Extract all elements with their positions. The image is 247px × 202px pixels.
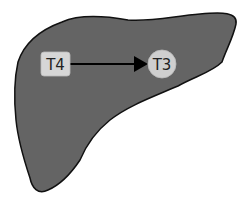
- liver-shape: [15, 13, 236, 192]
- node-t3-label: T3: [152, 56, 172, 74]
- node-t3: T3: [148, 50, 176, 78]
- node-t4: T4: [41, 52, 70, 76]
- liver-diagram: T4 T3: [0, 0, 247, 202]
- node-t4-label: T4: [45, 56, 65, 74]
